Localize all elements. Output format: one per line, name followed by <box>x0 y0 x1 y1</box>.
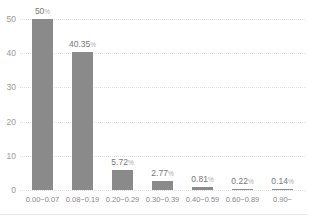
bar-value-number: 50 <box>35 6 44 16</box>
x-tick-label: 0.90~ <box>258 196 308 204</box>
gridline <box>20 19 305 20</box>
gridline <box>20 87 305 88</box>
bar-value-percent-sign: % <box>44 8 50 15</box>
gridline <box>20 122 305 123</box>
bar-value-label: 50% <box>13 7 73 16</box>
bar-value-percent-sign: % <box>288 178 294 185</box>
y-tick-label: 10 <box>0 152 16 161</box>
bar-value-percent-sign: % <box>90 41 96 48</box>
y-tick-label: 40 <box>0 49 16 58</box>
bar-value-number: 0.81 <box>191 174 208 184</box>
gridline <box>20 156 305 157</box>
y-tick-label: 50 <box>0 15 16 24</box>
bar <box>72 52 93 190</box>
bar <box>272 189 293 190</box>
bar-value-number: 2.77 <box>151 168 168 178</box>
bar <box>32 19 53 190</box>
bar-value-number: 5.72 <box>111 157 128 167</box>
bar-value-number: 0.14 <box>271 176 288 186</box>
y-tick-label: 20 <box>0 118 16 127</box>
gridline <box>20 190 305 191</box>
bar <box>112 170 133 190</box>
bar-value-label: 5.72% <box>93 158 153 167</box>
bar-value-label: 0.14% <box>253 177 309 186</box>
y-tick-label: 30 <box>0 83 16 92</box>
bar <box>232 189 253 190</box>
bar-value-number: 40.35 <box>69 39 90 49</box>
bar-chart: 0102030405050%0.00~0.0740.35%0.08~0.195.… <box>0 0 308 218</box>
bar-value-label: 40.35% <box>53 40 113 49</box>
y-tick-label: 0 <box>0 186 16 195</box>
bar <box>152 181 173 190</box>
bar-value-number: 0.22 <box>231 176 248 186</box>
bar-value-percent-sign: % <box>128 159 134 166</box>
gridline <box>20 53 305 54</box>
chart-bottom-border <box>0 214 308 215</box>
bar <box>192 187 213 190</box>
